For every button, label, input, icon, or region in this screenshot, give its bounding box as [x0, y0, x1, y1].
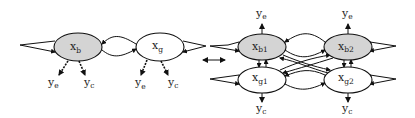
edge-xg1-to-xg2 — [285, 83, 325, 89]
output-arrow-xg-yc — [161, 61, 168, 75]
output-label-xb1-ye: ye — [255, 7, 267, 21]
output-label-xg1-yc: yc — [255, 102, 266, 116]
self-loop-xb1 — [210, 42, 239, 51]
diagram-svg: xb xg ye yc ye yc — [0, 0, 415, 118]
edge-xb2-to-xb1 — [285, 34, 325, 42]
output-arrow-xg-ye — [141, 60, 147, 75]
self-loop-xg — [183, 41, 206, 52]
edge-xb1-to-xg2 — [283, 55, 330, 70]
diagram-canvas: xb xg ye yc ye yc — [0, 0, 415, 118]
output-label-xb2-ye: ye — [341, 7, 353, 21]
edge-xg-to-xb — [102, 37, 136, 45]
right-model: xb1 xb2 xg1 xg2 ye ye yc yc — [210, 7, 396, 116]
output-label-xb-yc: yc — [83, 76, 94, 90]
left-model: xb xg ye yc ye yc — [20, 33, 206, 91]
self-loop-xb — [20, 41, 55, 52]
output-label-xb-ye: ye — [47, 76, 59, 90]
edge-xb-to-xg — [102, 49, 136, 56]
output-arrow-xb-yc — [79, 61, 85, 75]
output-label-xg-ye: ye — [134, 76, 146, 91]
output-label-xg-yc: yc — [167, 76, 178, 90]
output-label-xg2-yc: yc — [341, 102, 352, 116]
edge-xg2-to-xg1 — [285, 71, 325, 76]
self-loop-xb2 — [370, 42, 396, 51]
output-arrow-xb-ye — [59, 61, 68, 75]
self-loop-xg1 — [210, 75, 239, 84]
self-loop-xg2 — [370, 75, 396, 84]
edge-xb1-to-xb2 — [285, 50, 325, 57]
